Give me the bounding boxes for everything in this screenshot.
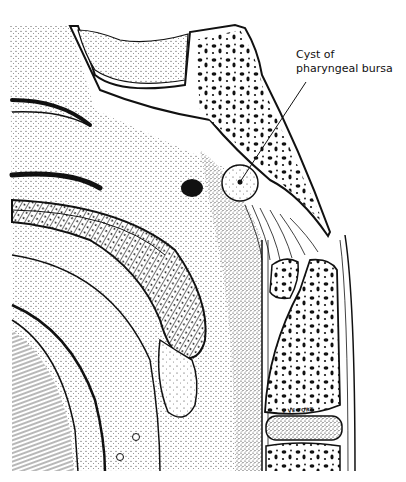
atlas-anterior-arch <box>270 259 298 298</box>
gland-1 <box>133 434 140 441</box>
intervertebral-disc <box>266 416 342 440</box>
gland-2 <box>117 454 124 461</box>
vertebral-line-4 <box>340 240 348 472</box>
torus-tubarius-pocket <box>181 179 203 197</box>
cyst-label-line1: Cyst of <box>296 48 393 62</box>
cyst-label: Cyst of pharyngeal bursa <box>296 48 393 76</box>
c3-vertebral-body <box>266 443 340 472</box>
cyst-label-line2: pharyngeal bursa <box>296 62 393 76</box>
